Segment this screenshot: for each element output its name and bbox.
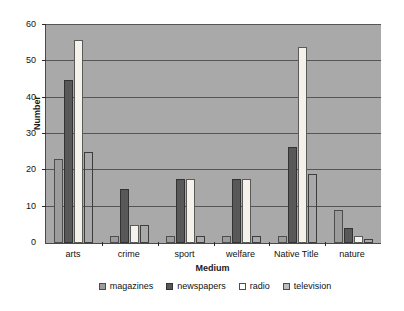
legend-label: television: [294, 281, 332, 291]
bar-newspapers-crime: [120, 189, 129, 244]
gridline: [46, 133, 381, 134]
bar-radio-crime: [130, 225, 139, 243]
y-axis-tick: [42, 24, 46, 25]
plot-inner: [46, 25, 381, 243]
bar-television-arts: [84, 152, 93, 243]
bar-television-native-title: [308, 174, 317, 243]
bar-newspapers-sport: [176, 179, 185, 243]
bar-television-crime: [140, 225, 149, 243]
gridline: [46, 24, 381, 25]
bar-radio-nature: [354, 236, 363, 243]
x-axis-tick: [325, 242, 326, 246]
bar-newspapers-nature: [344, 228, 353, 243]
bar-newspapers-welfare: [232, 179, 241, 243]
x-axis-label-sport: sport: [157, 249, 213, 259]
legend-item-television[interactable]: television: [283, 281, 332, 291]
x-axis-label-welfare: welfare: [213, 249, 269, 259]
x-axis-tick: [102, 242, 103, 246]
y-axis-tick-label: 50: [0, 56, 36, 65]
bar-radio-welfare: [242, 179, 251, 243]
y-axis-tick: [42, 97, 46, 98]
x-axis-label-nature: nature: [324, 249, 380, 259]
bar-newspapers-arts: [64, 80, 73, 244]
gridline: [46, 169, 381, 170]
legend-swatch-icon-magazines: [99, 283, 106, 290]
bar-radio-arts: [74, 40, 83, 243]
legend-label: newspapers: [177, 281, 226, 291]
x-axis-tick: [214, 242, 215, 246]
legend-swatch-icon-radio: [239, 283, 246, 290]
x-axis-title: Medium: [45, 263, 380, 273]
bar-television-sport: [196, 236, 205, 243]
gridline: [46, 97, 381, 98]
bar-television-nature: [364, 239, 373, 243]
legend-item-radio[interactable]: radio: [239, 281, 270, 291]
x-axis-tick: [158, 242, 159, 246]
gridline: [46, 206, 381, 207]
bar-magazines-sport: [166, 236, 175, 243]
gridline: [46, 60, 381, 61]
y-axis-tick: [42, 169, 46, 170]
legend-swatch-icon-television: [283, 283, 290, 290]
bar-magazines-arts: [54, 159, 63, 243]
y-axis-tick-label: 60: [0, 20, 36, 29]
y-axis-tick-label: 0: [0, 238, 36, 247]
bar-newspapers-native-title: [288, 147, 297, 243]
legend-item-magazines[interactable]: magazines: [99, 281, 154, 291]
x-axis-label-arts: arts: [45, 249, 101, 259]
bar-television-welfare: [252, 236, 261, 243]
y-axis-tick-label: 30: [0, 129, 36, 138]
bar-magazines-nature: [334, 210, 343, 243]
x-axis-tick: [269, 242, 270, 246]
legend-label: radio: [250, 281, 270, 291]
x-axis-label-crime: crime: [101, 249, 157, 259]
bar-chart: Number 0102030405060 artscrimesportwelfa…: [0, 0, 404, 311]
y-axis-tick-label: 40: [0, 93, 36, 102]
bar-magazines-welfare: [222, 236, 231, 243]
bar-magazines-crime: [110, 236, 119, 243]
y-axis-tick-label: 20: [0, 165, 36, 174]
x-axis-label-native-title: Native Title: [268, 249, 324, 259]
chart-legend: magazinesnewspapersradiotelevision: [45, 281, 385, 291]
legend-swatch-icon-newspapers: [166, 283, 173, 290]
y-axis-tick: [42, 133, 46, 134]
legend-item-newspapers[interactable]: newspapers: [166, 281, 226, 291]
y-axis-tick: [42, 206, 46, 207]
bar-magazines-native-title: [278, 236, 287, 243]
legend-label: magazines: [110, 281, 154, 291]
bar-radio-native-title: [298, 47, 307, 243]
plot-area: [45, 25, 381, 244]
bar-radio-sport: [186, 179, 195, 243]
y-axis-tick-label: 10: [0, 202, 36, 211]
y-axis-tick: [42, 60, 46, 61]
